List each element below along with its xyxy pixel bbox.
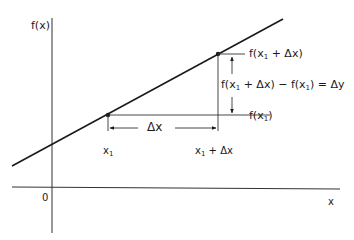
y-axis-label: f(x) bbox=[31, 20, 50, 31]
x-axis bbox=[12, 187, 340, 189]
x1-label: x1 bbox=[103, 146, 113, 158]
x-axis-label: x bbox=[328, 197, 334, 207]
f-x1-plus-dx-label: f(x1 + Δx) bbox=[249, 48, 303, 61]
f-x1-label: f(x1) bbox=[249, 110, 272, 123]
delta-x-label: Δx bbox=[145, 121, 164, 133]
x1-plus-dx-label: x1 + Δx bbox=[195, 146, 233, 158]
function-line bbox=[12, 19, 283, 166]
delta-y-equation: f(x1 + Δx) − f(x1) = Δy bbox=[220, 79, 346, 92]
origin-label: 0 bbox=[42, 193, 48, 203]
function-diagram bbox=[0, 0, 354, 240]
